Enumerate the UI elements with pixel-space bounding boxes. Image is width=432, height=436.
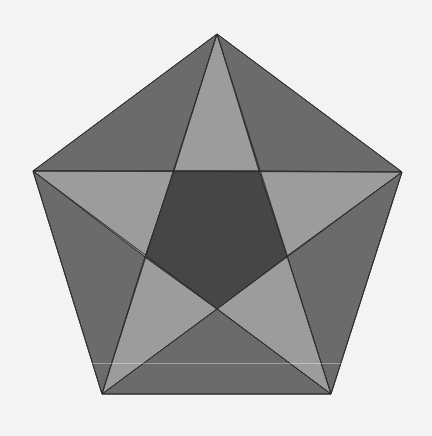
diagram-canvas xyxy=(0,0,432,436)
pentagon-pentagram-diagram xyxy=(0,0,432,436)
